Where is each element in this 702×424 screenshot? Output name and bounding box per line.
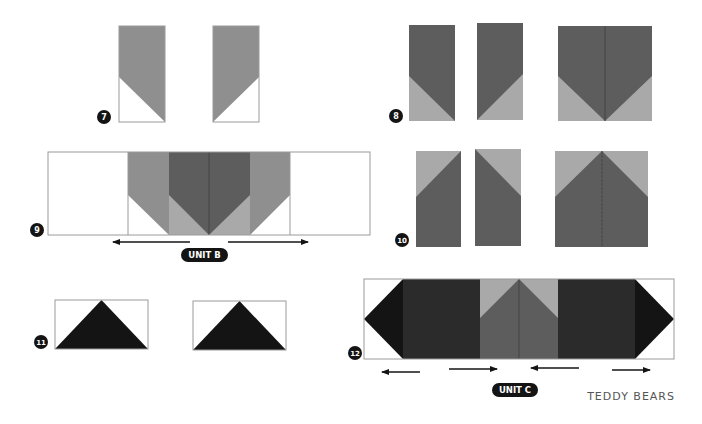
unit-b-center-right bbox=[209, 152, 250, 235]
step-10-block-left bbox=[416, 151, 461, 247]
step-12-unit-c: UNIT C bbox=[364, 279, 674, 397]
unit-c-badge: UNIT C bbox=[492, 383, 538, 397]
quilt-shape: 9 bbox=[34, 226, 40, 235]
quilt-shape: 12 bbox=[350, 350, 360, 358]
step-10-blocks bbox=[416, 149, 648, 247]
step-7-block-left bbox=[119, 26, 165, 122]
step-10-block-middle bbox=[475, 149, 521, 246]
unit-b-badge: UNIT B bbox=[181, 248, 228, 262]
unit-c-label: UNIT C bbox=[499, 385, 531, 395]
unit-c-center bbox=[480, 279, 558, 359]
unit-b-center-left bbox=[169, 152, 209, 235]
step-7-blocks bbox=[119, 26, 259, 122]
quilt-shape: 7 bbox=[101, 113, 107, 122]
step-11-blocks bbox=[55, 300, 286, 350]
step-9-unit-b: UNIT B bbox=[48, 152, 370, 262]
step-badge-10: 10 bbox=[395, 233, 409, 247]
unit-c-right-body bbox=[558, 279, 635, 359]
step-11-block-right bbox=[193, 301, 286, 350]
step-11-block-left bbox=[55, 300, 148, 349]
unit-c-left-body bbox=[403, 279, 480, 359]
quilt-assembly-diagram: UNIT B bbox=[0, 0, 702, 424]
step-badge-7: 7 bbox=[97, 110, 111, 124]
quilt-shape: 11 bbox=[36, 339, 46, 347]
unit-b-label: UNIT B bbox=[188, 250, 220, 260]
step-badge-12: 12 bbox=[348, 346, 362, 360]
step-badge-8: 8 bbox=[389, 109, 403, 123]
step-badge-9: 9 bbox=[30, 223, 44, 237]
step-7-block-right bbox=[213, 26, 259, 122]
step-8-block-joined bbox=[558, 26, 652, 121]
step-badge-11: 11 bbox=[34, 335, 48, 349]
quilt-shape: 8 bbox=[393, 112, 399, 121]
step-8-block-middle bbox=[477, 23, 523, 120]
pattern-name: TEDDY BEARS bbox=[586, 390, 675, 403]
step-8-block-left bbox=[409, 25, 455, 121]
step-8-blocks bbox=[409, 23, 652, 121]
quilt-shape: 10 bbox=[397, 237, 407, 245]
step-10-block-joined bbox=[555, 151, 648, 247]
